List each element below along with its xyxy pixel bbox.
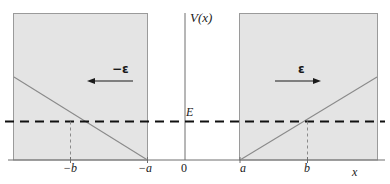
tick-label-a: a <box>240 162 246 174</box>
potential-barrier-figure: V(x) E 0 −b −a a b x −ε ε <box>0 0 390 184</box>
y-axis-label: V(x) <box>190 11 212 24</box>
energy-level-label: E <box>186 106 193 118</box>
tick-label-b: b <box>304 162 310 174</box>
figure-canvas <box>0 0 390 184</box>
left-barrier-region <box>14 14 148 161</box>
origin-label: 0 <box>181 162 187 174</box>
tick-label-minus-b: −b <box>63 162 77 174</box>
x-axis-label: x <box>352 166 357 178</box>
right-barrier-region <box>240 14 378 161</box>
field-label-right: ε <box>298 63 305 75</box>
tick-label-minus-a: −a <box>138 162 152 174</box>
field-label-left: −ε <box>112 63 129 75</box>
